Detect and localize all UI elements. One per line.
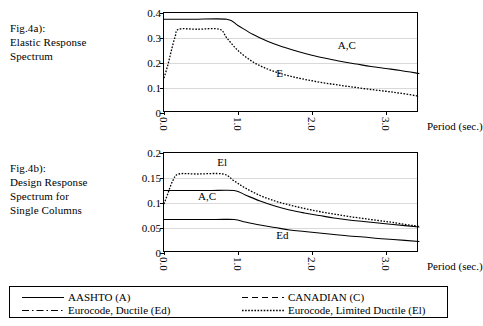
- legend-label: Eurocode, Limited Ductile (El): [288, 303, 425, 317]
- legend-swatch-dotted: [242, 309, 284, 312]
- curve-label-e: E: [276, 68, 283, 79]
- y-tick-label: 0.4: [147, 8, 161, 19]
- legend-label: AASHTO (A): [68, 290, 130, 304]
- curve-label-ac: A,C: [338, 40, 356, 51]
- y-tick-label: 0.1: [147, 198, 161, 209]
- x-tick-label: 3.0: [380, 117, 391, 131]
- x-axis-title: Period (sec.): [427, 121, 483, 132]
- x-tick-label: 2.0: [306, 257, 317, 271]
- curve-label-ed: Ed: [276, 230, 288, 241]
- y-tick-label: 0.2: [147, 58, 161, 69]
- y-tick-label: 0.15: [142, 173, 161, 184]
- legend-swatch-dash-dot: [22, 309, 64, 312]
- curve-label-ac: A,C: [198, 191, 216, 202]
- series-line-e: [164, 29, 419, 97]
- x-tick-label: 0.0: [158, 117, 169, 131]
- figure-a-caption-line-3: Spectrum: [10, 49, 130, 63]
- legend-swatch-solid: [22, 296, 64, 299]
- legend-box: AASHTO (A)CANADIAN (C)Eurocode, Ductile …: [9, 286, 448, 318]
- series-layer: [164, 153, 419, 253]
- legend-label: CANADIAN (C): [288, 290, 364, 304]
- x-axis-title: Period (sec.): [427, 261, 483, 272]
- y-tick-label: 0.2: [147, 148, 161, 159]
- legend-label: Eurocode, Ductile (Ed): [68, 303, 170, 317]
- y-tick-label: 0.05: [142, 223, 161, 234]
- series-line-ac: [164, 19, 419, 74]
- figure-b-caption: Fig.4b): Design Response Spectrum for Si…: [10, 161, 140, 217]
- design-response-spectrum-chart: 00.050.10.150.20.01.02.03.0Period (sec.)…: [163, 152, 418, 252]
- figure-b-caption-line-3: Spectrum for: [10, 189, 140, 203]
- figure-b-caption-line-4: Single Columns: [10, 203, 140, 217]
- curve-label-el: El: [217, 157, 227, 168]
- figure-a-caption-line-2: Elastic Response: [10, 35, 130, 49]
- plot-area: 00.050.10.150.20.01.02.03.0Period (sec.)…: [163, 152, 418, 252]
- x-tick-label: 3.0: [380, 257, 391, 271]
- x-tick-label: 1.0: [232, 117, 243, 131]
- x-tick-label: 0.0: [158, 257, 169, 271]
- plot-area: 00.10.20.30.40.01.02.03.0Period (sec.)A,…: [163, 12, 418, 112]
- y-tick-label: 0.3: [147, 33, 161, 44]
- series-line-ed: [164, 219, 419, 241]
- legend-swatch-dashed: [242, 296, 284, 299]
- elastic-response-spectrum-chart: 00.10.20.30.40.01.02.03.0Period (sec.)A,…: [163, 12, 418, 112]
- y-tick-label: 0.1: [147, 83, 161, 94]
- figure-b-caption-line-1: Fig.4b):: [10, 161, 140, 175]
- x-tick-label: 2.0: [306, 117, 317, 131]
- figure-a-caption: Fig.4a): Elastic Response Spectrum: [10, 21, 130, 63]
- series-layer: [164, 13, 419, 113]
- x-tick-label: 1.0: [232, 257, 243, 271]
- figure-b-caption-line-2: Design Response: [10, 175, 140, 189]
- figure-a-caption-line-1: Fig.4a):: [10, 21, 130, 35]
